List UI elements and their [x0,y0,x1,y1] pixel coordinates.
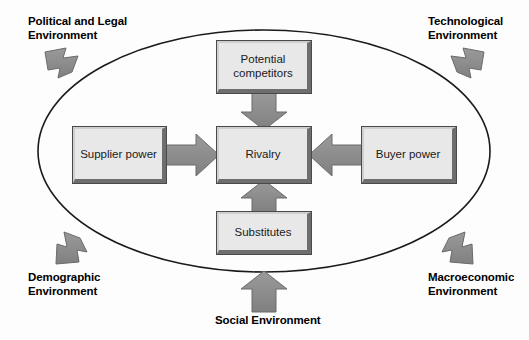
force-label-potential-competitors: Potential competitors [219,52,307,81]
force-box-potential-competitors[interactable]: Potential competitors [217,41,311,93]
force-label-substitutes: Substitutes [231,225,296,239]
force-label-buyer-power: Buyer power [372,147,445,161]
five-forces-diagram: Potential competitors Supplier power Riv… [0,0,529,340]
arrow-macroeconomic [442,232,473,264]
force-box-supplier-power[interactable]: Supplier power [73,127,166,183]
arrow-social [241,271,287,312]
env-label-social: Social Environment [215,313,321,327]
arrow-political-legal [45,48,78,78]
arrow-potential-to-rivalry [241,92,287,130]
force-box-rivalry[interactable]: Rivalry [217,127,311,183]
env-label-demographic: Demographic Environment [28,270,100,298]
arrow-demographic [56,232,87,264]
force-box-buyer-power[interactable]: Buyer power [362,127,456,183]
arrow-substitutes-to-rivalry [241,180,287,212]
arrow-supplier-to-rivalry [166,134,219,176]
arrow-buyer-to-rivalry [309,134,362,176]
env-label-political-legal: Political and Legal Environment [28,14,127,42]
arrow-technological [451,48,484,78]
env-label-macroeconomic: Macroeconomic Environment [428,270,514,298]
force-label-supplier-power: Supplier power [76,147,161,161]
force-box-substitutes[interactable]: Substitutes [217,212,311,254]
env-label-technological: Technological Environment [428,14,503,42]
force-label-rivalry: Rivalry [241,147,284,161]
